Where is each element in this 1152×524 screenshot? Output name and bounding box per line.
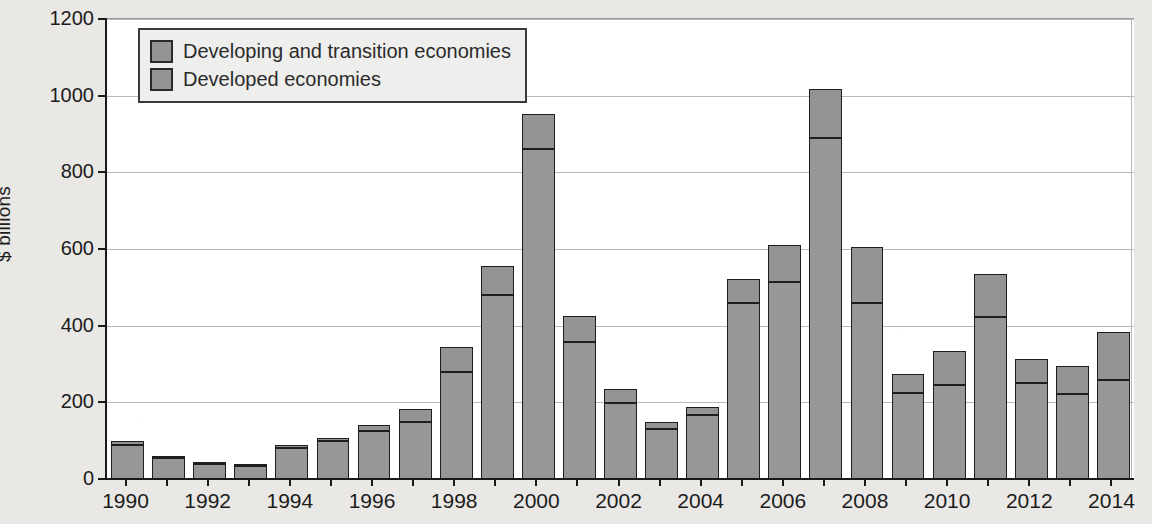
y-axis-tick-mark [98, 325, 107, 327]
bar-segment-developing [1015, 359, 1048, 383]
bar-segment-developing [440, 347, 473, 372]
x-axis-tick-mark [618, 478, 620, 486]
bar-1993 [234, 464, 267, 479]
gridline [107, 172, 1134, 173]
bar-1990 [111, 441, 144, 479]
bar-segment-developing [1097, 332, 1130, 380]
bar-segment-developing [481, 266, 514, 295]
legend-item-developing: Developing and transition economies [150, 37, 511, 65]
y-axis-tick-label: 600 [61, 237, 94, 260]
bar-1998 [440, 347, 473, 479]
y-axis-tick-mark [98, 248, 107, 250]
bar-segment-developed [152, 458, 185, 479]
bar-segment-developing [809, 89, 842, 138]
bar-segment-developed [727, 303, 760, 479]
bar-segment-developing [234, 464, 267, 466]
bar-segment-developed [317, 441, 350, 479]
x-axis-tick-mark [700, 478, 702, 486]
bar-segment-developing [604, 389, 637, 404]
x-axis-tick-mark [1069, 478, 1071, 486]
x-axis-tick-mark [823, 478, 825, 486]
x-axis-line [105, 478, 1134, 480]
x-axis-tick-label-1996: 1996 [349, 489, 396, 513]
y-axis-tick-label: 400 [61, 313, 94, 336]
y-axis-tick-label: 1000 [50, 83, 95, 106]
y-axis-tick-label: 0 [83, 467, 94, 490]
y-axis-tick-mark [98, 401, 107, 403]
x-axis-tick-mark [659, 478, 661, 486]
bar-segment-developing [358, 425, 391, 432]
bar-segment-developing [933, 351, 966, 385]
bar-segment-developed [933, 385, 966, 479]
x-axis-tick-label-2006: 2006 [759, 489, 806, 513]
x-axis-tick-mark [248, 478, 250, 486]
x-axis-tick-mark [1028, 478, 1030, 486]
bar-segment-developing [399, 409, 432, 422]
x-axis-tick-label-2004: 2004 [677, 489, 724, 513]
gridline [107, 249, 1134, 250]
chart-figure: $ billions 020040060080010001200 1990199… [0, 0, 1152, 524]
bar-1994 [275, 445, 308, 479]
x-axis-tick-mark [782, 478, 784, 486]
bar-segment-developing [1056, 366, 1089, 394]
x-axis-tick-label-2010: 2010 [924, 489, 971, 513]
bar-1995 [317, 438, 350, 479]
bar-segment-developed [275, 448, 308, 479]
bar-segment-developing [111, 441, 144, 444]
x-axis-tick-mark [576, 478, 578, 486]
bar-segment-developing [522, 114, 555, 149]
x-axis-tick-mark [494, 478, 496, 486]
legend-swatch-developed-icon [150, 68, 173, 91]
bar-segment-developing [645, 422, 678, 430]
x-axis-tick-mark [741, 478, 743, 486]
bar-segment-developed [686, 415, 719, 479]
bar-2006 [768, 245, 801, 479]
bar-2004 [686, 407, 719, 479]
bar-2013 [1056, 366, 1089, 479]
bar-1999 [481, 266, 514, 479]
bar-segment-developing [193, 462, 226, 464]
bar-2001 [563, 316, 596, 479]
bar-segment-developing [768, 245, 801, 281]
bar-segment-developing [974, 274, 1007, 317]
bar-segment-developed [1015, 383, 1048, 479]
bar-segment-developed [440, 372, 473, 479]
bar-segment-developed [358, 431, 391, 479]
bar-2005 [727, 279, 760, 479]
bar-segment-developed [809, 138, 842, 479]
bar-1997 [399, 409, 432, 479]
bar-segment-developing [275, 445, 308, 448]
x-axis-tick-mark [412, 478, 414, 486]
x-axis-tick-label-1994: 1994 [267, 489, 314, 513]
legend-label-developing: Developing and transition economies [183, 40, 511, 63]
y-axis-tick-labels: 020040060080010001200 [0, 0, 94, 524]
x-axis-tick-mark [166, 478, 168, 486]
bar-2011 [974, 274, 1007, 479]
bar-segment-developed [892, 393, 925, 479]
x-axis-tick-label-1990: 1990 [102, 489, 149, 513]
bar-segment-developed [1056, 394, 1089, 479]
x-axis-tick-mark [125, 478, 127, 486]
plot-right-edge [1131, 18, 1132, 478]
bar-2003 [645, 422, 678, 480]
x-axis-tick-mark [946, 478, 948, 486]
bar-segment-developed [481, 295, 514, 479]
bar-2000 [522, 114, 555, 479]
x-axis-tick-label-2000: 2000 [513, 489, 560, 513]
bar-1991 [152, 456, 185, 479]
bar-1996 [358, 425, 391, 479]
bar-2010 [933, 351, 966, 479]
bar-segment-developing [152, 456, 185, 458]
bar-segment-developing [892, 374, 925, 393]
bar-segment-developed [768, 282, 801, 479]
bar-2014 [1097, 332, 1130, 479]
legend-item-developed: Developed economies [150, 65, 511, 93]
bar-segment-developed [111, 445, 144, 480]
x-axis-tick-label-2008: 2008 [842, 489, 889, 513]
bar-segment-developed [974, 317, 1007, 479]
bar-segment-developing [686, 407, 719, 415]
y-axis-tick-label: 200 [61, 390, 94, 413]
bar-segment-developed [851, 303, 884, 479]
bar-2008 [851, 247, 884, 479]
bar-segment-developing [727, 279, 760, 303]
